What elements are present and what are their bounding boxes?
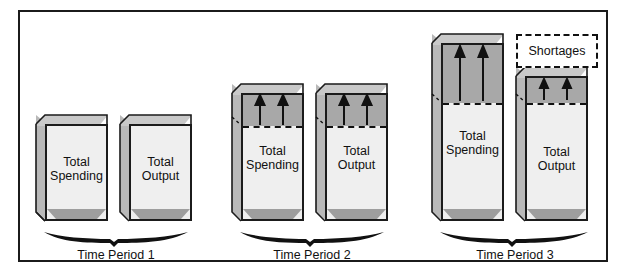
shortages-callout: Shortages [516,34,598,68]
brace-period-2 [238,230,386,248]
brace-period-1 [42,230,190,248]
period-group-3: Total Spending Shortages [412,12,602,260]
bar-baseline-dashed [527,103,586,105]
bar-period3-spending: Total Spending [432,34,504,221]
bar-bottom-face [527,209,586,219]
bar-baseline-dashed [327,126,386,128]
bar-bottom-face [243,209,302,219]
figure-root: Total Spending Total Output Time Period [0,0,631,276]
shortages-label: Shortages [529,44,586,58]
diagram-frame: Total Spending Total Output Time Period [18,10,608,262]
bar-increase-band [443,45,502,103]
bar-bottom-face [131,209,190,219]
bar-increase-band [243,95,302,126]
bar-label-period3-output: Total Output [525,145,588,173]
bar-baseline-dashed [243,126,302,128]
bar-bottom-face [47,209,106,219]
bar-label-period1-output: Total Output [129,155,192,183]
bar-period1-spending: Total Spending [36,115,108,221]
bar-period2-spending: Total Spending [232,84,304,221]
bar-increase-band [527,78,586,103]
period-group-2: Total Spending [216,12,396,260]
bar-period3-output: Total Output [516,67,588,221]
bar-label-period1-spending: Total Spending [45,155,108,183]
bar-label-period2-spending: Total Spending [241,144,304,172]
bar-bottom-face [327,209,386,219]
caption-period-3: Time Period 3 [420,248,610,262]
bar-period2-output: Total Output [316,84,388,221]
bar-label-period3-spending: Total Spending [441,129,504,157]
bar-bottom-face [443,209,502,219]
caption-period-2: Time Period 2 [216,248,408,262]
brace-period-3 [438,230,590,248]
bar-baseline-dashed [443,103,502,105]
bar-label-period2-output: Total Output [325,144,388,172]
caption-period-1: Time Period 1 [20,248,212,262]
bar-period1-output: Total Output [120,115,192,221]
period-group-1: Total Spending Total Output Time Period [20,12,200,260]
bar-increase-band [327,95,386,126]
